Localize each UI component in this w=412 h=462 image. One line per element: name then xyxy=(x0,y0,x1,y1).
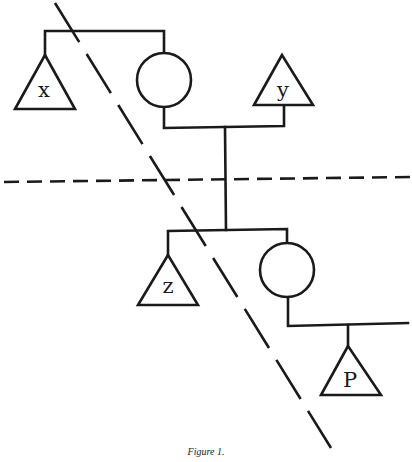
label-p: P xyxy=(343,368,357,392)
node-circle-bottom xyxy=(260,243,314,297)
node-circle-top xyxy=(137,53,191,107)
circle-bottom-descent-line xyxy=(288,297,408,326)
descent-line-top xyxy=(225,127,226,230)
label-x: x xyxy=(38,78,50,102)
node-p: P xyxy=(321,346,381,395)
circle-bottom xyxy=(260,243,314,297)
label-z: z xyxy=(162,274,173,298)
node-x: x xyxy=(15,55,75,109)
x-circle-top-marriage-line xyxy=(45,31,164,55)
horizontal-dashed-divider xyxy=(4,177,412,182)
pedigree-diagram: x y z P xyxy=(0,0,412,462)
circle-top-y-marriage-line xyxy=(164,105,284,128)
figure-caption: Figure 1. xyxy=(0,446,412,457)
label-y: y xyxy=(276,78,289,102)
node-z: z xyxy=(138,255,198,305)
circle-top xyxy=(137,53,191,107)
node-y: y xyxy=(254,55,313,105)
